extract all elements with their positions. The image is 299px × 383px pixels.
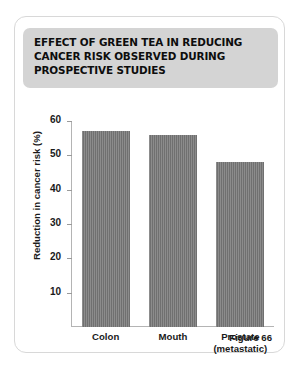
x-axis-label-main: Mouth (139, 331, 206, 343)
bars-layer (72, 121, 274, 327)
bar (82, 131, 130, 327)
x-axis-label: Mouth (139, 331, 206, 343)
y-axis-tick-label: 20 (50, 251, 61, 262)
y-axis-tick-label: 50 (50, 148, 61, 159)
x-axis-label: Colon (72, 331, 139, 343)
title-banner: EFFECT OF GREEN TEA IN REDUCING CANCER R… (23, 28, 278, 88)
bar-slot (82, 121, 130, 327)
y-axis-tick-label: 30 (50, 217, 61, 228)
y-axis-title: Reduction in cancer risk (%) (31, 126, 42, 266)
bar-slot (149, 121, 197, 327)
chart-title: EFFECT OF GREEN TEA IN REDUCING CANCER R… (34, 36, 255, 79)
bar (149, 135, 197, 327)
plot-area: 102030405060 (71, 121, 274, 327)
x-axis-label-qualifier: (metastatic) (207, 343, 274, 355)
y-axis-tick-label: 40 (50, 183, 61, 194)
y-axis-tick-label: 10 (50, 286, 61, 297)
figure-caption: Figure 66 (229, 332, 272, 343)
y-axis-tick-label: 60 (50, 114, 61, 125)
bar (216, 162, 264, 327)
x-axis-label-main: Colon (72, 331, 139, 343)
figure-card: EFFECT OF GREEN TEA IN REDUCING CANCER R… (14, 16, 285, 353)
chart-plot-block: Reduction in cancer risk (%) 10203040506… (15, 93, 286, 354)
bar-slot (216, 121, 264, 327)
